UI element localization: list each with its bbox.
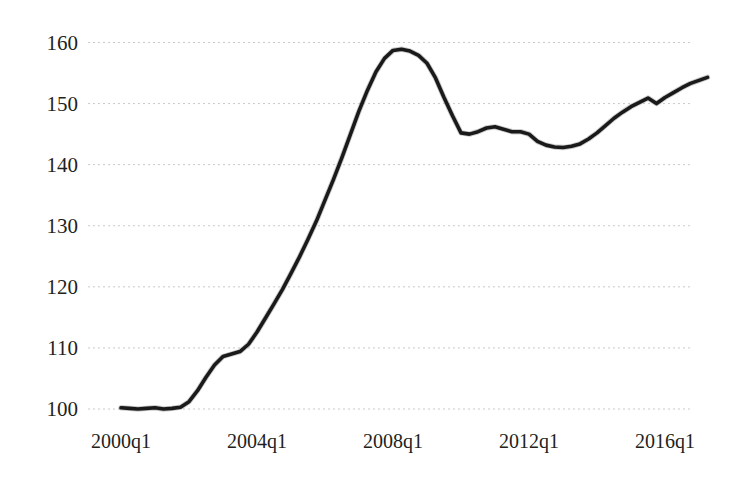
x-tick-label-2004q1: 2004q1 xyxy=(227,430,287,453)
x-tick-label-2000q1: 2000q1 xyxy=(91,430,151,453)
x-tick-label-2012q1: 2012q1 xyxy=(499,430,559,453)
x-axis-tick-labels: 2000q12004q12008q12012q12016q1 xyxy=(91,430,695,453)
y-tick-label-100: 100 xyxy=(47,397,79,421)
x-tick-label-2008q1: 2008q1 xyxy=(363,430,423,453)
y-tick-label-150: 150 xyxy=(47,92,79,116)
x-tick-label-2016q1: 2016q1 xyxy=(635,430,695,453)
y-tick-label-130: 130 xyxy=(47,214,79,238)
y-tick-label-160: 160 xyxy=(47,31,79,55)
gridline-group xyxy=(88,43,692,410)
y-tick-label-140: 140 xyxy=(47,153,79,177)
y-tick-label-110: 110 xyxy=(47,336,78,360)
chart-canvas: 100110120130140150160 2000q12004q12008q1… xyxy=(0,0,737,483)
line-chart: 100110120130140150160 2000q12004q12008q1… xyxy=(0,0,737,483)
y-axis-tick-labels: 100110120130140150160 xyxy=(47,31,79,422)
y-tick-label-120: 120 xyxy=(47,275,79,299)
